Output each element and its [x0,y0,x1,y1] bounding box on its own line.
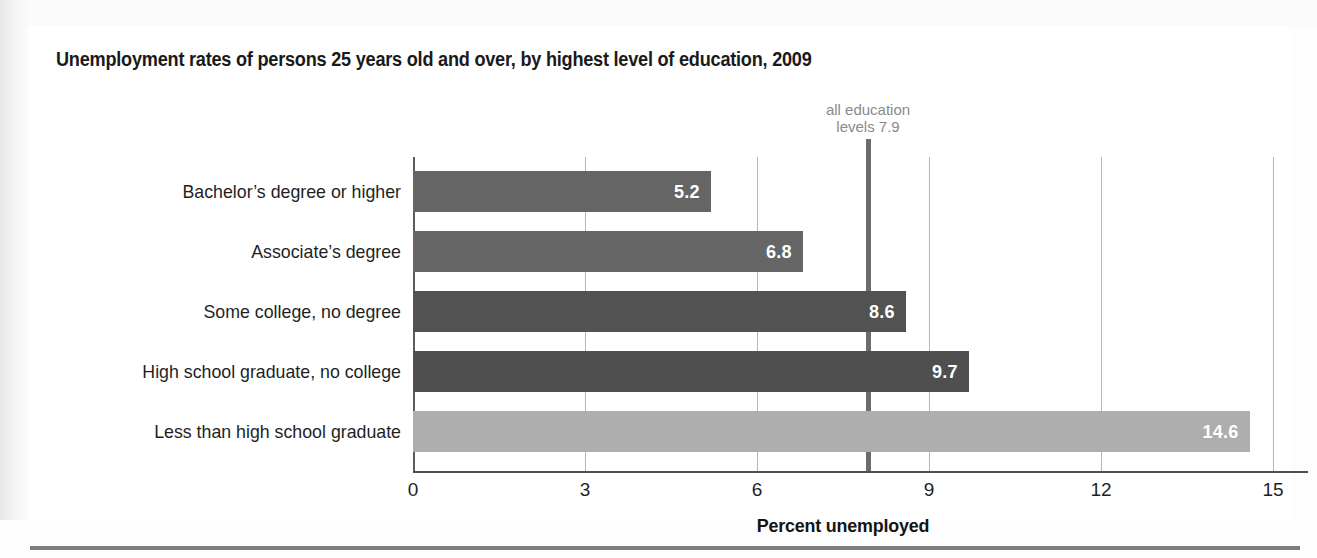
reference-line-annotation: all education levels 7.9 [826,101,910,135]
bar-row: 8.6 Some college, no degree [413,291,906,332]
bar-bachelors-degree-or-higher[interactable]: 5.2 [413,171,711,212]
bar-row: 5.2 Bachelor’s degree or higher [413,171,711,212]
category-label-wrap: Bachelor’s degree or higher [41,171,401,212]
category-label-wrap: High school graduate, no college [41,351,401,392]
bar-associates-degree[interactable]: 6.8 [413,231,803,272]
category-label-wrap: Some college, no degree [41,291,401,332]
x-tick-label-3: 3 [580,479,591,501]
x-tick-label-15: 15 [1262,479,1283,501]
plot-area: all education levels 7.9 5.2 Bachelor’s … [413,157,1273,471]
x-axis-line [413,471,1308,473]
chart-title: Unemployment rates of persons 25 years o… [56,48,812,71]
bar-row: 14.6 Less than high school graduate [413,411,1250,452]
x-tick-label-9: 9 [924,479,935,501]
reference-line-annotation-line2: levels 7.9 [826,118,910,135]
bar-value-label: 8.6 [869,301,906,323]
x-axis-title: Percent unemployed [439,515,1247,537]
figure-body: Unemployment rates of persons 25 years o… [28,26,1290,520]
figure-container: Unemployment rates of persons 25 years o… [0,0,1317,558]
bar-high-school-graduate-no-college[interactable]: 9.7 [413,351,969,392]
bar-value-label: 5.2 [674,181,711,203]
bar-row: 6.8 Associate’s degree [413,231,803,272]
page-edge-top [28,0,1317,26]
category-label-associates-degree: Associate’s degree [55,241,401,263]
category-label-some-college-no-degree: Some college, no degree [55,301,401,323]
page-edge-left [0,0,28,520]
bar-value-label: 9.7 [932,361,969,383]
category-label-high-school-graduate-no-college: High school graduate, no college [55,361,401,383]
bottom-rule [30,546,1300,550]
bar-value-label: 14.6 [1203,421,1250,443]
bar-less-than-high-school-graduate[interactable]: 14.6 [413,411,1250,452]
category-label-bachelors-degree-or-higher: Bachelor’s degree or higher [55,181,401,203]
x-tick-label-0: 0 [408,479,419,501]
gridline-15 [1273,157,1274,471]
x-tick-label-12: 12 [1090,479,1111,501]
reference-line-annotation-line1: all education [826,101,910,118]
category-label-wrap: Associate’s degree [41,231,401,272]
bar-some-college-no-degree[interactable]: 8.6 [413,291,906,332]
category-label-less-than-high-school-graduate: Less than high school graduate [55,421,401,443]
bar-row: 9.7 High school graduate, no college [413,351,969,392]
bar-value-label: 6.8 [766,241,803,263]
category-label-wrap: Less than high school graduate [41,411,401,452]
x-tick-label-6: 6 [752,479,763,501]
